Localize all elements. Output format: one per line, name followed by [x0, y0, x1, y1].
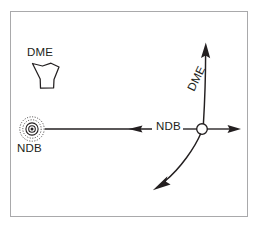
dme-arc-upper [201, 43, 210, 125]
ndb-bearing-label: NDB [154, 121, 183, 133]
diagram-canvas [0, 0, 258, 231]
intersection-fix-circle-icon [197, 124, 208, 135]
arrow-left-icon [129, 125, 143, 132]
ndb-station-label: NDB [17, 143, 42, 155]
dme-arc-lower [153, 134, 201, 191]
dme-hexagon-icon [33, 63, 60, 88]
dme-station-label: DME [27, 47, 53, 59]
ndb-concentric-circles-icon [20, 117, 44, 141]
outbound-course-arrow [207, 125, 241, 133]
figure-root: DME NDB NDB DME [0, 0, 258, 231]
